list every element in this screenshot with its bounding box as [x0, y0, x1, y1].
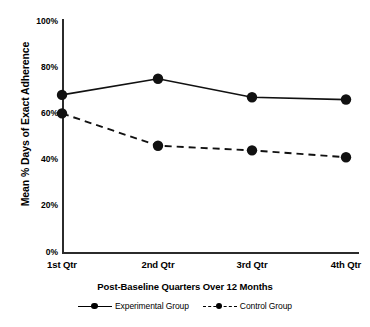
series-control-line — [62, 113, 346, 157]
y-tick-label: 100% — [24, 17, 58, 26]
y-tick-label: 20% — [24, 201, 58, 210]
series-canvas — [62, 21, 360, 252]
chart-figure: Mean % Days of Exact Adherence 100% 80% … — [0, 0, 370, 327]
legend-swatch-dashed-line-icon — [203, 302, 237, 311]
x-axis-title: Post-Baseline Quarters Over 12 Months — [0, 281, 370, 292]
data-point — [153, 74, 163, 84]
data-point — [247, 92, 257, 102]
legend-label: Control Group — [240, 301, 292, 311]
data-point — [341, 94, 351, 104]
chart-legend: Experimental Group Control Group — [0, 301, 370, 311]
x-tick-label: 3rd Qtr — [212, 259, 292, 270]
x-axis-line — [62, 252, 359, 254]
legend-item-control[interactable]: Control Group — [203, 301, 292, 311]
data-point — [153, 141, 163, 151]
legend-label: Experimental Group — [115, 301, 189, 311]
series-experimental-line — [62, 79, 346, 100]
series-control-markers — [57, 108, 351, 162]
x-tick-label: 4th Qtr — [306, 259, 370, 270]
x-tick-label: 2nd Qtr — [118, 259, 198, 270]
legend-item-experimental[interactable]: Experimental Group — [78, 301, 189, 311]
x-tick-label: 1st Qtr — [22, 259, 102, 270]
y-tick-label: 40% — [24, 155, 58, 164]
y-tick-label: 60% — [24, 109, 58, 118]
y-axis-tick-labels: 100% 80% 60% 40% 20% 0% — [22, 0, 58, 327]
y-tick-label: 0% — [24, 248, 58, 257]
y-tick-label: 80% — [24, 63, 58, 72]
data-point — [57, 108, 67, 118]
data-point — [57, 90, 67, 100]
data-point — [247, 145, 257, 155]
data-point — [341, 152, 351, 162]
plot-area — [62, 21, 360, 252]
legend-swatch-solid-line-icon — [78, 302, 112, 311]
